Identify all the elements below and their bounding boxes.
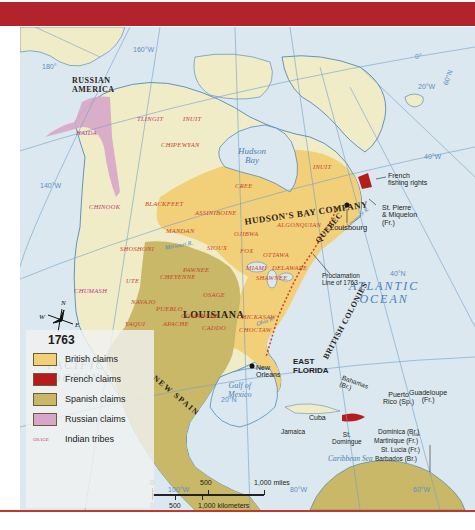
legend-label: Indian tribes — [65, 434, 114, 444]
label-st-pierre-miquelon: St. Pierre & Miquelon (Fr.) — [382, 204, 417, 226]
tribe-label: OTTAWA — [263, 252, 289, 259]
tribe-label: INUIT — [183, 116, 201, 123]
spanish-swatch — [33, 393, 57, 406]
tribe-label: HAIDA — [76, 130, 97, 137]
tribe-label: FOX — [240, 248, 254, 255]
tribe-label: INUIT — [313, 164, 331, 171]
legend-item-russian: Russian claims — [33, 412, 126, 426]
tribe-label: TLINGIT — [137, 116, 163, 123]
label-french-fishing-rights: French fishing rights — [388, 172, 427, 187]
tribe-label: DELAWARE — [272, 265, 307, 272]
tribe-label: SIOUX — [207, 245, 227, 252]
legend-label: Russian claims — [65, 414, 126, 424]
tribe-label: UTE — [126, 278, 139, 285]
tribe-label: CHUMASH — [74, 288, 107, 295]
tribe-label: SHAWNEE — [256, 275, 287, 282]
tribe-label: CREE — [235, 183, 252, 190]
label-st-domingue: St. Domingue — [332, 432, 362, 446]
grid-label-60w: 60°W — [413, 486, 430, 493]
scale-km-1000: 1,000 kilometers — [198, 502, 249, 509]
tribe-label: ASSINIBOINE — [195, 210, 237, 217]
legend-item-tribes: OSAGE Indian tribes — [33, 432, 114, 446]
scale-miles-500: 500 — [200, 479, 212, 486]
legend-label: French claims — [65, 374, 121, 384]
label-caribbean-sea: Caribbean Sea — [328, 455, 373, 463]
tribe-label: CHIPEWYAN — [161, 142, 200, 149]
label-hudson-bay: Hudson Bay — [238, 147, 266, 165]
tribe-label: NAVAJO — [131, 299, 156, 306]
grid-label-40n: 40°N — [390, 270, 406, 277]
label-dominica: Dominica (Br.) — [378, 429, 419, 436]
tribe-label: SHOSHONI — [120, 246, 154, 253]
label-barbados: Barbados (Br.) — [375, 456, 417, 463]
grid-label-100w: 100°W — [168, 486, 189, 493]
compass-rose-icon — [48, 309, 73, 332]
legend-item-spanish: Spanish claims — [33, 392, 126, 406]
label-russian-america: RUSSIAN AMERICA — [72, 77, 115, 95]
grid-label-180: 180° — [42, 63, 56, 70]
compass-n-label: N — [61, 300, 66, 307]
label-guadeloupe: Guadeloupe (Fr.) — [409, 389, 447, 404]
label-st-lucia: St. Lucia (Fr.) — [381, 447, 420, 454]
tribe-label: YAQUI — [125, 321, 145, 328]
compass-w-label: W — [39, 314, 45, 321]
label-proclamation-line: Proclamation Line of 1763 — [322, 273, 360, 287]
tribe-label: BLACKFEET — [145, 201, 183, 208]
legend-title: 1763 — [48, 333, 75, 347]
british-swatch — [33, 353, 57, 366]
tribe-label: ALGONQUIAN — [277, 222, 321, 229]
tribe-label: COMANCHE — [181, 313, 219, 320]
label-jamaica: Jamaica — [281, 429, 305, 436]
tribe-label: CHICKASAW — [237, 314, 276, 321]
russian-swatch — [33, 413, 57, 426]
tribe-label: MANDAN — [166, 228, 195, 235]
top-frame-bar — [0, 2, 475, 26]
compass-e-label: E — [75, 322, 80, 329]
legend-label: Spanish claims — [65, 394, 126, 404]
tribe-label: CHINOOK — [89, 204, 120, 211]
label-new-orleans: New Orleans — [256, 364, 281, 379]
french-swatch — [33, 373, 57, 386]
tribe-sample-text: OSAGE — [33, 437, 57, 442]
tribe-label: CHEYENNE — [160, 274, 196, 281]
grid-label-140w: 140°W — [40, 182, 61, 189]
label-martinique: Martinique (Fr.) — [374, 438, 418, 445]
grid-label-160w: 160°W — [133, 46, 154, 53]
grid-label-80w: 80°W — [290, 486, 307, 493]
scale-miles-1000: 1,000 miles — [254, 479, 290, 486]
legend-item-british: British claims — [33, 352, 118, 366]
grid-label-20n: 20°N — [221, 396, 237, 403]
grid-label-40w: 40°W — [424, 153, 441, 160]
tribe-label: OJIBWA — [234, 231, 258, 238]
legend-label: British claims — [65, 354, 118, 364]
bottom-frame-line — [0, 510, 475, 512]
tribe-label: CHOCTAW — [239, 327, 271, 334]
tribe-label: MIAMI — [246, 265, 267, 272]
label-east-florida: EAST FLORIDA — [293, 358, 329, 376]
tribe-label: PUEBLO — [156, 306, 183, 313]
tribe-label: APACHE — [163, 321, 189, 328]
legend-item-french: French claims — [33, 372, 121, 386]
grid-label-20w: 20°W — [418, 83, 435, 90]
tribe-label: OSAGE — [203, 292, 225, 299]
grid-label-0: 0° — [415, 53, 422, 60]
scale-km-500: 500 — [169, 502, 181, 509]
tribe-label: CADDO — [202, 325, 226, 332]
label-cuba: Cuba — [309, 414, 326, 421]
label-louisbourg: Louisbourg — [330, 224, 367, 232]
